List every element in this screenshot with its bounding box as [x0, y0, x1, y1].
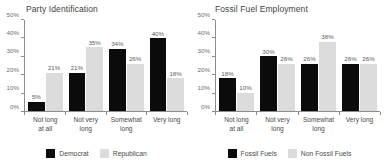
y-axis-tick-label: 20%: [198, 65, 210, 72]
bar-item[interactable]: 18%: [219, 20, 236, 111]
bar-item[interactable]: 10%: [237, 20, 254, 111]
legend-item[interactable]: Fossil Fuels: [228, 149, 277, 158]
bar-group: 40%18%: [147, 20, 188, 111]
two-panel-bar-chart-figure: Party Identification 5%21%21%35%34%26%40…: [0, 0, 386, 163]
y-axis-tick-label: 40%: [7, 28, 19, 35]
y-axis-tick-label: 10%: [7, 84, 19, 91]
bar-value-label: 26%: [280, 56, 292, 62]
bar[interactable]: [360, 64, 377, 111]
bar-value-label: 35%: [88, 40, 100, 46]
bar-group: 34%26%: [106, 20, 147, 111]
bar-value-label: 10%: [239, 85, 251, 91]
legend-swatch-icon: [46, 149, 55, 158]
bar[interactable]: [301, 64, 318, 111]
y-axis-tick-label: 50%: [7, 10, 19, 17]
x-axis-label-line: long: [257, 125, 298, 134]
y-axis-tick: [21, 74, 24, 75]
x-axis-label: Not longat all: [25, 114, 66, 136]
x-axis-label: Somewhatlong: [298, 114, 339, 136]
legend-label: Fossil Fuels: [241, 150, 277, 157]
bar-item[interactable]: 18%: [167, 20, 184, 111]
y-axis-tick-label: 0%: [10, 102, 19, 109]
y-axis-tick: [21, 19, 24, 20]
x-axis-label-line: Not long: [25, 116, 66, 125]
bar[interactable]: [150, 38, 167, 111]
x-axis-label: Very long: [147, 114, 188, 136]
bar-value-label: 21%: [48, 65, 60, 71]
x-axis-label: Not verylong: [66, 114, 107, 136]
bar[interactable]: [46, 73, 63, 111]
plot-area-fossil-fuel-employment: 18%10%30%26%26%38%26%26% 0%10%20%30%40%5…: [215, 20, 380, 112]
bar-value-label: 26%: [362, 56, 374, 62]
bar-group: 26%26%: [339, 20, 380, 111]
bar-value-label: 18%: [169, 71, 181, 77]
legend-label: Non Fossil Fuels: [301, 150, 352, 157]
bar-item[interactable]: 38%: [319, 20, 336, 111]
bar-item[interactable]: 30%: [260, 20, 277, 111]
bar[interactable]: [219, 78, 236, 111]
x-axis-label-line: Very long: [339, 116, 380, 125]
x-axis-label-line: Not long: [216, 116, 257, 125]
x-axis-label-line: Not very: [257, 116, 298, 125]
bar-group: 5%21%: [25, 20, 66, 111]
bar-item[interactable]: 40%: [150, 20, 167, 111]
x-axis-label-line: Not very: [66, 116, 107, 125]
bar[interactable]: [319, 42, 336, 111]
x-axis-label-line: long: [106, 125, 147, 134]
bar-item[interactable]: 34%: [109, 20, 126, 111]
bar[interactable]: [237, 93, 254, 111]
legend-swatch-icon: [228, 149, 237, 158]
x-axis-label: Very long: [339, 114, 380, 136]
bar-item[interactable]: 26%: [360, 20, 377, 111]
x-axis-label: Not longat all: [216, 114, 257, 136]
bar-item[interactable]: 26%: [301, 20, 318, 111]
bar-item[interactable]: 21%: [46, 20, 63, 111]
legend-party-identification: DemocratRepublican: [0, 149, 193, 158]
bar-groups: 18%10%30%26%26%38%26%26%: [216, 20, 380, 111]
bar[interactable]: [109, 49, 126, 111]
bar[interactable]: [342, 64, 359, 111]
y-axis-tick-label: 50%: [198, 10, 210, 17]
legend-item[interactable]: Non Fossil Fuels: [288, 149, 352, 158]
bar[interactable]: [69, 73, 86, 111]
bar-item[interactable]: 5%: [28, 20, 45, 111]
bar-value-label: 5%: [32, 94, 41, 100]
x-axis-label: Somewhatlong: [106, 114, 147, 136]
bar-group: 18%10%: [216, 20, 257, 111]
legend-item[interactable]: Republican: [100, 149, 147, 158]
x-axis-label: Not verylong: [257, 114, 298, 136]
bar-item[interactable]: 26%: [342, 20, 359, 111]
bar-value-label: 34%: [111, 41, 123, 47]
bar-item[interactable]: 26%: [278, 20, 295, 111]
bar[interactable]: [86, 47, 103, 111]
bar-item[interactable]: 26%: [127, 20, 144, 111]
bar-item[interactable]: 35%: [86, 20, 103, 111]
chart-title-party-identification: Party Identification: [26, 4, 98, 14]
x-axis-label-line: at all: [25, 125, 66, 134]
bar[interactable]: [278, 64, 295, 111]
bar[interactable]: [260, 56, 277, 111]
y-axis-tick-label: 30%: [7, 47, 19, 54]
legend-fossil-fuel-employment: Fossil FuelsNon Fossil Fuels: [193, 149, 386, 158]
chart-panel-party-identification: Party Identification 5%21%21%35%34%26%40…: [0, 0, 193, 163]
y-axis-tick-label: 40%: [198, 28, 210, 35]
bar[interactable]: [28, 102, 45, 111]
legend-label: Republican: [113, 150, 147, 157]
y-axis-tick: [21, 56, 24, 57]
bar-value-label: 26%: [129, 56, 141, 62]
bar-group: 21%35%: [66, 20, 107, 111]
x-axis-category-labels: Not longat allNot verylongSomewhatlongVe…: [216, 114, 380, 136]
bar-item[interactable]: 21%: [69, 20, 86, 111]
chart-panel-fossil-fuel-employment: Fossil Fuel Employment 18%10%30%26%26%38…: [193, 0, 386, 163]
plot-area-party-identification: 5%21%21%35%34%26%40%18% 0%10%20%30%40%50…: [24, 20, 187, 112]
y-axis-tick: [212, 74, 215, 75]
bar-group: 26%38%: [298, 20, 339, 111]
x-axis-label-line: Very long: [147, 116, 188, 125]
legend-swatch-icon: [100, 149, 109, 158]
bar[interactable]: [167, 78, 184, 111]
legend-item[interactable]: Democrat: [46, 149, 88, 158]
bar[interactable]: [127, 64, 144, 111]
x-axis-label-line: long: [66, 125, 107, 134]
y-axis-tick-label: 20%: [7, 65, 19, 72]
y-axis-tick: [21, 37, 24, 38]
